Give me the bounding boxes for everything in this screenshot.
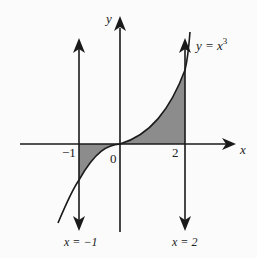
boundary-label-x-neg1: x = −1 [63,235,98,249]
boundary-label-x-2: x = 2 [171,235,197,249]
x-axis [20,138,236,150]
y-axis-label: y [104,11,112,26]
tick-label-two: 2 [172,145,179,160]
tick-label-zero: 0 [110,151,117,166]
tick-label-neg1: −1 [62,145,76,160]
shaded-region-right [120,70,185,144]
curve-equation-label: y = x3 [194,36,228,53]
cubic-area-diagram: y x −1 0 2 y = x3 x = −1 x = 2 [0,0,257,258]
x-axis-label: x [239,142,246,157]
y-axis [114,16,126,232]
boundary-line-x-neg1 [73,38,85,231]
